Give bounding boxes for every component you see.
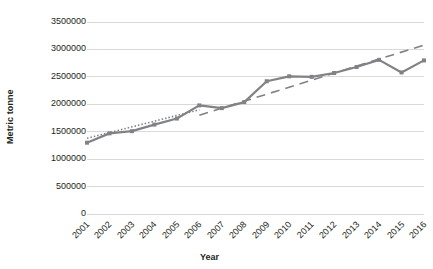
x-tick-label: 2016 (408, 220, 429, 241)
x-tick-label: 2001 (71, 220, 92, 241)
x-tick-label: 2012 (318, 220, 339, 241)
x-tick-label: 2011 (295, 220, 315, 240)
chart-container: Metric tonne 050000010000001500000200000… (0, 0, 433, 269)
x-tick-label: 2008 (228, 220, 249, 241)
x-tick-label: 2013 (340, 220, 361, 241)
x-tick-label: 2009 (251, 220, 272, 241)
x-tick-label: 2003 (116, 220, 137, 241)
x-tick-label: 2010 (273, 220, 294, 241)
x-tick-label: 2007 (206, 220, 227, 241)
x-tick-label: 2002 (93, 220, 114, 241)
x-axis-title: Year (200, 252, 219, 262)
x-axis-tick-labels: 2001200220032004200520062007200820092010… (0, 0, 433, 269)
x-tick-label: 2014 (363, 220, 384, 241)
x-tick-label: 2006 (183, 220, 204, 241)
x-tick-label: 2015 (385, 220, 406, 241)
x-tick-label: 2004 (138, 220, 159, 241)
x-tick-label: 2005 (161, 220, 182, 241)
